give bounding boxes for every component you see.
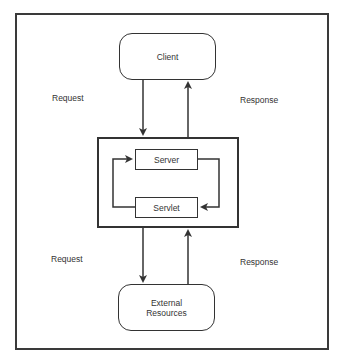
server-label: Server (154, 155, 179, 165)
servlet-node: Servlet (135, 197, 198, 218)
client-node: Client (119, 33, 216, 80)
external-resources-node: External Resources (118, 284, 215, 331)
servlet-label: Servlet (153, 203, 179, 213)
external-resources-label-line1: External (151, 298, 182, 308)
external-resources-label-line2: Resources (146, 308, 187, 318)
top-request-label: Request (52, 93, 84, 103)
bottom-response-label: Response (240, 257, 278, 267)
server-node: Server (135, 149, 198, 170)
top-response-label: Response (240, 95, 278, 105)
client-label: Client (157, 52, 179, 62)
bottom-request-label: Request (51, 254, 83, 264)
